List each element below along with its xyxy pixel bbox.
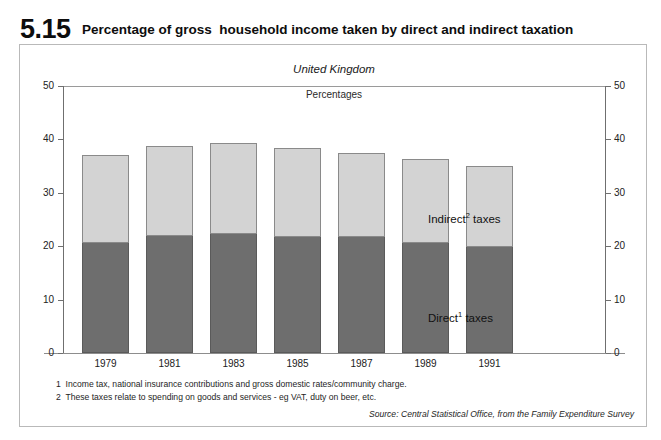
y-tick-label-left-30: 30 xyxy=(20,188,54,198)
bar-segment-direct-1983 xyxy=(210,234,257,353)
bar-segment-direct-1981 xyxy=(146,236,193,353)
tick-left-20 xyxy=(58,246,63,247)
footnote-2: 2 These taxes relate to spending on good… xyxy=(56,391,616,404)
tick-right-40 xyxy=(606,139,611,140)
tick-left-10 xyxy=(58,300,63,301)
x-axis-baseline xyxy=(63,353,606,354)
y-tick-label-left-40: 40 xyxy=(20,134,54,144)
footnotes: 1 Income tax, national insurance contrib… xyxy=(56,378,616,404)
x-axis-label-1981: 1981 xyxy=(146,358,193,369)
y-tick-label-right-20: 20 xyxy=(614,241,648,251)
chart-subtitle-country: United Kingdom xyxy=(20,63,648,75)
legend-indirect-text: Indirect xyxy=(428,213,466,225)
bar-segment-direct-1987 xyxy=(338,237,385,353)
bar-segment-indirect-1983 xyxy=(210,143,257,235)
footnote-1: 1 Income tax, national insurance contrib… xyxy=(56,378,616,391)
y-axis-right xyxy=(605,86,606,354)
legend-indirect-taxes: Indirect2 taxes xyxy=(428,211,501,225)
bar-segment-direct-1989 xyxy=(402,243,449,353)
x-axis-label-1987: 1987 xyxy=(338,358,385,369)
x-axis-label-1985: 1985 xyxy=(274,358,321,369)
y-tick-label-right-30: 30 xyxy=(614,188,648,198)
tick-right-10 xyxy=(606,300,611,301)
figure-page: 5.15 Percentage of gross household incom… xyxy=(0,0,661,440)
y-axis-left xyxy=(63,86,64,354)
figure-title: Percentage of gross household income tak… xyxy=(82,22,573,37)
bar-segment-direct-1979 xyxy=(82,243,129,353)
figure-header: 5.15 Percentage of gross household incom… xyxy=(0,10,661,46)
y-tick-label-left-20: 20 xyxy=(20,241,54,251)
x-axis-label-1979: 1979 xyxy=(82,358,129,369)
bar-1987 xyxy=(338,153,385,353)
y-tick-label-left-10: 10 xyxy=(20,295,54,305)
bar-segment-indirect-1987 xyxy=(338,153,385,237)
bar-segment-indirect-1989 xyxy=(402,159,449,243)
y-tick-label-right-0: 0 xyxy=(614,348,648,358)
bar-1991 xyxy=(466,166,513,353)
tick-right-0 xyxy=(606,353,611,354)
tick-left-40 xyxy=(58,139,63,140)
bar-1979 xyxy=(82,155,129,353)
chart-units-label: Percentages xyxy=(20,89,648,100)
plot-top-rule xyxy=(63,86,606,87)
x-axis-label-1989: 1989 xyxy=(402,358,449,369)
source-line: Source: Central Statistical Office, from… xyxy=(369,409,634,419)
legend-direct-taxes: Direct1 taxes xyxy=(428,310,493,324)
legend-indirect-suffix: taxes xyxy=(470,213,501,225)
y-tick-label-right-40: 40 xyxy=(614,134,648,144)
bar-segment-indirect-1991 xyxy=(466,166,513,247)
bar-1985 xyxy=(274,148,321,353)
figure-number: 5.15 xyxy=(20,16,71,43)
y-tick-label-right-10: 10 xyxy=(614,295,648,305)
x-axis-label-1991: 1991 xyxy=(466,358,513,369)
legend-direct-text: Direct xyxy=(428,312,458,324)
tick-left-50 xyxy=(58,86,63,87)
tick-left-0 xyxy=(58,353,63,354)
bar-segment-direct-1985 xyxy=(274,237,321,353)
tick-left-30 xyxy=(58,193,63,194)
legend-direct-suffix: taxes xyxy=(462,312,493,324)
tick-right-30 xyxy=(606,193,611,194)
bar-segment-indirect-1981 xyxy=(146,146,193,236)
y-tick-label-right-50: 50 xyxy=(614,81,648,91)
bar-1981 xyxy=(146,146,193,353)
bar-1983 xyxy=(210,143,257,353)
bar-1989 xyxy=(402,159,449,353)
bar-segment-indirect-1979 xyxy=(82,155,129,243)
y-tick-label-left-50: 50 xyxy=(20,81,54,91)
y-tick-label-left-0: 0 xyxy=(20,348,54,358)
bar-segment-direct-1991 xyxy=(466,247,513,353)
tick-right-20 xyxy=(606,246,611,247)
chart-panel: United Kingdom Percentages 0010102020303… xyxy=(19,44,647,427)
tick-right-50 xyxy=(606,86,611,87)
bar-segment-indirect-1985 xyxy=(274,148,321,237)
x-axis-label-1983: 1983 xyxy=(210,358,257,369)
